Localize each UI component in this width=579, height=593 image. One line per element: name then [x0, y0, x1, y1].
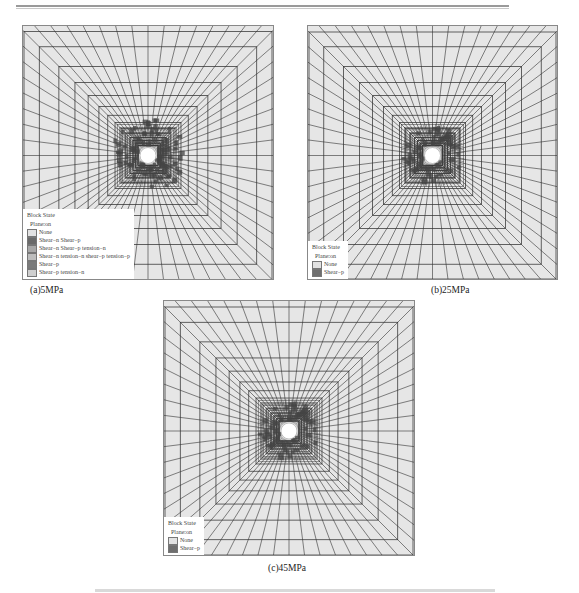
legend-item: Shear−n Shear−p: [27, 237, 130, 245]
legend-item: Shear−p: [312, 269, 344, 277]
legend-label: Shear−p tension−n: [39, 269, 84, 276]
legend-plane: Plane:on: [315, 253, 344, 260]
legend-swatch: [27, 261, 37, 269]
legend-label: Shear−n Shear−p: [39, 237, 81, 244]
mesh-panel-c: Block State Plane:on NoneShear−p: [163, 300, 415, 556]
legend-item: None: [27, 229, 130, 237]
legend-item: None: [168, 537, 200, 545]
legend-swatch: [27, 245, 37, 253]
legend-swatch: [27, 237, 37, 245]
legend-item: Shear−p: [27, 261, 130, 269]
legend-label: Shear−n Shear−p tension−n: [39, 245, 106, 252]
legend-label: Shear−n tension−n shear−p tension−p: [39, 253, 130, 260]
legend-item: None: [312, 261, 344, 269]
legend-items: NoneShear−p: [168, 537, 200, 553]
legend-label: None: [39, 229, 52, 236]
legend-label: Shear−p: [39, 261, 59, 268]
legend-title: Block State: [27, 212, 130, 219]
header-rule-thin: [16, 8, 509, 9]
legend-swatch: [27, 253, 37, 261]
legend-label: Shear−p: [324, 269, 344, 276]
legend-label: None: [180, 537, 193, 544]
legend-item: Shear−n tension−n shear−p tension−p: [27, 253, 130, 261]
legend-items: NoneShear−p: [312, 261, 344, 277]
legend-label: Shear−p: [180, 545, 200, 552]
legend-a: Block State Plane:on NoneShear−n Shear−p…: [23, 209, 134, 279]
mesh-panel-a: Block State Plane:on NoneShear−n Shear−p…: [22, 25, 274, 280]
legend-swatch: [312, 261, 322, 269]
caption-b: (b)25MPa: [431, 285, 470, 295]
legend-item: Shear−p: [168, 545, 200, 553]
legend-title: Block State: [312, 244, 344, 251]
legend-swatch: [312, 269, 322, 277]
legend-b: Block State Plane:on NoneShear−p: [308, 241, 348, 279]
legend-item: Shear−n Shear−p tension−n: [27, 245, 130, 253]
legend-c: Block State Plane:on NoneShear−p: [164, 517, 204, 555]
mesh-panel-b: Block State Plane:on NoneShear−p: [307, 25, 558, 280]
legend-label: None: [324, 261, 337, 268]
legend-item: Shear−p tension−n: [27, 269, 130, 277]
legend-swatch: [168, 537, 178, 545]
legend-swatch: [27, 229, 37, 237]
legend-plane: Plane:on: [30, 221, 130, 228]
legend-title: Block State: [168, 520, 200, 527]
legend-plane: Plane:on: [171, 529, 200, 536]
header-rule: [16, 5, 509, 7]
legend-swatch: [168, 545, 178, 553]
legend-items: NoneShear−n Shear−pShear−n Shear−p tensi…: [27, 229, 130, 277]
legend-swatch: [27, 269, 37, 277]
figure-caption-cutoff: [95, 589, 495, 592]
caption-a: (a)5MPa: [30, 285, 63, 295]
caption-c: (c)45MPa: [268, 563, 306, 573]
